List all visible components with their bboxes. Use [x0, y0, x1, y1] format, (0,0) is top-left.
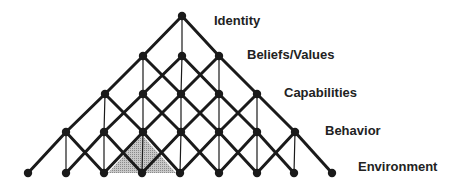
lattice-node [215, 169, 223, 177]
lattice-node [291, 128, 299, 136]
diagonal-connector [143, 16, 182, 56]
diagonal-connector [105, 56, 143, 94]
lattice-node [101, 90, 109, 98]
lattice-node [215, 90, 223, 98]
lattice-node [215, 128, 223, 136]
level-label-beliefs-values: Beliefs/Values [247, 48, 334, 61]
lattice-node [138, 169, 146, 177]
vertical-connector [104, 94, 105, 132]
diagonal-connector [28, 132, 66, 173]
vertical-connector [181, 56, 182, 94]
lattice-node [253, 128, 261, 136]
lattice-node [290, 169, 298, 177]
lattice-node [139, 52, 147, 60]
lattice-node [215, 52, 223, 60]
diagonal-connector [295, 132, 332, 173]
lattice-node [100, 169, 108, 177]
level-label-identity: Identity [214, 14, 260, 27]
lattice-node [62, 169, 70, 177]
lattice-node [328, 169, 336, 177]
vertical-connector [180, 132, 181, 173]
lattice-node [253, 90, 261, 98]
diagonal-connector [66, 94, 105, 132]
lattice-node [139, 128, 147, 136]
vertical-connector [294, 132, 295, 173]
lattice-node [177, 128, 185, 136]
lattice-node [139, 90, 147, 98]
lattice-node [62, 128, 70, 136]
lattice-node [253, 169, 261, 177]
lattice-node [176, 169, 184, 177]
lattice-node [100, 128, 108, 136]
lattice-node [178, 52, 186, 60]
lattice-node [177, 90, 185, 98]
lattice-node [24, 169, 32, 177]
level-label-environment: Environment [358, 160, 437, 173]
lattice-node [178, 12, 186, 20]
level-label-behavior: Behavior [325, 124, 381, 137]
level-label-capabilities: Capabilities [284, 86, 357, 99]
